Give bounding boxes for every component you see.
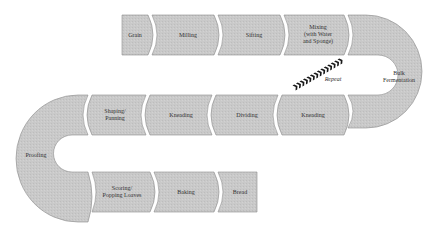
- step-dividing-label: Dividing: [236, 112, 257, 119]
- step-mixing-label-line3: and Sponge): [303, 38, 333, 45]
- step-mixing-label-line2: (with Water: [304, 31, 332, 38]
- bread-process-diagram: Grain Milling Sifting Mixing (with Water…: [0, 0, 433, 225]
- step-shaping-label-line1: Shaping/: [104, 108, 125, 115]
- repeat-label: Repeat: [325, 76, 342, 83]
- step-grain-label: Grain: [128, 32, 142, 39]
- step-mixing-label-line1: Mixing: [309, 24, 327, 31]
- step-bread-label: Bread: [233, 189, 247, 196]
- step-kneading-1-label: Kneading: [169, 112, 192, 119]
- step-scoring-label-line2: Popping Loaves: [103, 192, 142, 199]
- step-proofing-label: Proofing: [26, 152, 47, 159]
- step-milling-label: Milling: [179, 32, 197, 39]
- step-bulk-fermentation-shape: [348, 15, 422, 128]
- step-baking-label: Baking: [177, 189, 194, 196]
- repeat-arrow: [293, 57, 344, 90]
- step-proofing-shape: [16, 95, 92, 222]
- step-shaping-label-line2: Panning: [105, 115, 125, 122]
- diagram-canvas: [0, 0, 433, 225]
- step-sifting-label: Sifting: [246, 32, 262, 39]
- step-bulk-fermentation-label-line1: Bulk: [393, 70, 405, 77]
- step-scoring-label-line1: Scoring/: [112, 185, 132, 192]
- step-kneading-2-label: Kneading: [301, 112, 324, 119]
- step-bulk-fermentation-label-line2: Fermentation: [383, 77, 415, 84]
